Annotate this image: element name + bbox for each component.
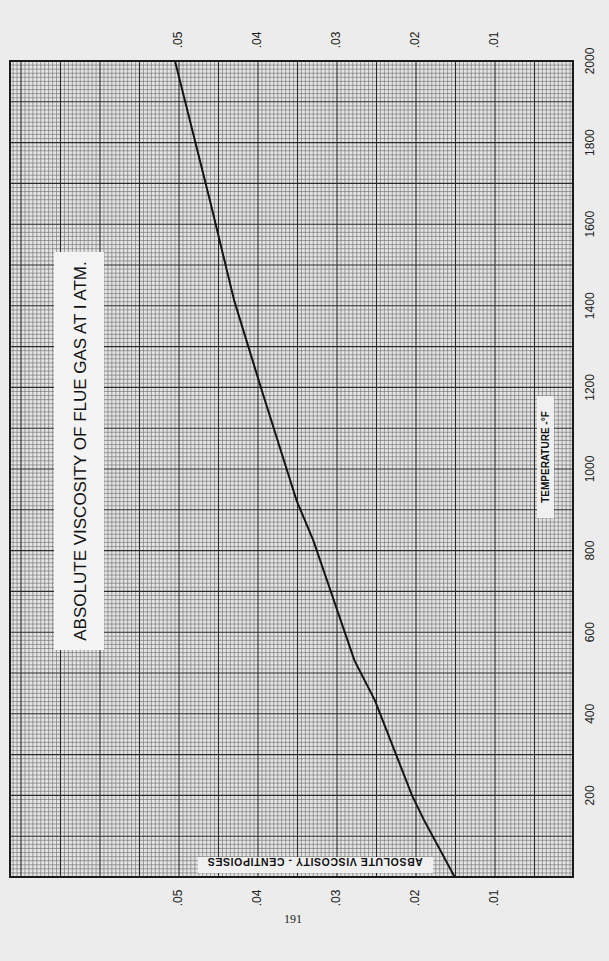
viscosity-tick: .04 — [250, 889, 264, 906]
viscosity-tick: .01 — [487, 31, 501, 48]
temperature-tick-labels: 200400600800100012001400160018002000 — [583, 47, 597, 805]
temperature-tick: 1800 — [583, 129, 597, 156]
temperature-tick: 1000 — [583, 455, 597, 482]
y-axis-label: ABSOLUTE VISCOSITY - CENTIPOISES — [207, 856, 423, 868]
temperature-tick: 2000 — [583, 47, 597, 74]
chart: ABSOLUTE VISCOSITY OF FLUE GAS AT I ATM.… — [0, 0, 609, 961]
viscosity-tick: .02 — [408, 31, 422, 48]
temperature-tick: 800 — [583, 540, 597, 560]
temperature-tick: 400 — [583, 703, 597, 723]
page-number: 191 — [284, 912, 302, 927]
temperature-tick: 600 — [583, 622, 597, 642]
x-axis-label: TEMPERATURE -°F — [540, 411, 551, 503]
chart-title: ABSOLUTE VISCOSITY OF FLUE GAS AT I ATM. — [71, 261, 90, 640]
temperature-tick: 1600 — [583, 211, 597, 238]
temperature-tick: 200 — [583, 785, 597, 805]
viscosity-tick: .05 — [171, 889, 185, 906]
viscosity-tick-labels-top: .01.02.03.04.05 — [171, 31, 501, 48]
viscosity-tick: .01 — [487, 889, 501, 906]
viscosity-tick: .02 — [408, 889, 422, 906]
viscosity-tick: .03 — [329, 31, 343, 48]
viscosity-tick: .03 — [329, 889, 343, 906]
temperature-tick: 1400 — [583, 292, 597, 319]
viscosity-tick: .04 — [250, 31, 264, 48]
viscosity-tick: .05 — [171, 31, 185, 48]
viscosity-tick-labels-bottom: .01.02.03.04.05 — [171, 889, 501, 906]
temperature-tick: 1200 — [583, 374, 597, 401]
